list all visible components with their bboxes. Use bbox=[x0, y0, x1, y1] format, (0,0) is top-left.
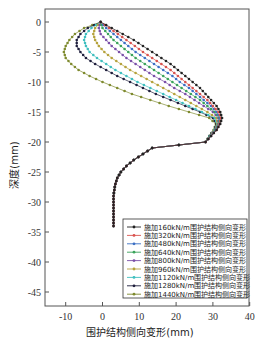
data-point bbox=[110, 57, 113, 60]
data-point bbox=[168, 84, 171, 87]
data-point bbox=[177, 75, 180, 78]
data-point bbox=[217, 108, 220, 111]
data-point bbox=[83, 27, 86, 30]
data-point bbox=[198, 114, 201, 117]
legend: 施加160kN/m围护结构侧向变形施加320kN/m围护结构侧向变形施加480k… bbox=[123, 219, 250, 299]
data-point bbox=[155, 93, 158, 96]
legend-item: 施加1280kN/m围护结构侧向变形 bbox=[127, 281, 250, 290]
legend-item: 施加480kN/m围护结构侧向变形 bbox=[127, 239, 246, 248]
data-point bbox=[209, 102, 212, 105]
data-point bbox=[112, 201, 115, 204]
data-point bbox=[107, 33, 110, 36]
data-point bbox=[112, 210, 115, 213]
data-point bbox=[88, 51, 91, 54]
data-point bbox=[120, 72, 123, 75]
data-point bbox=[194, 108, 197, 111]
data-point bbox=[98, 27, 101, 30]
data-point bbox=[92, 33, 95, 36]
data-point bbox=[116, 36, 119, 39]
data-point bbox=[195, 105, 198, 108]
data-point bbox=[202, 96, 205, 99]
data-point bbox=[99, 33, 102, 36]
data-point bbox=[169, 69, 172, 72]
data-point bbox=[105, 63, 108, 66]
data-point bbox=[167, 78, 170, 81]
data-point bbox=[110, 45, 113, 48]
data-point bbox=[83, 72, 86, 75]
data-point bbox=[115, 60, 118, 63]
data-point bbox=[149, 87, 152, 90]
data-point bbox=[145, 78, 148, 81]
data-point bbox=[139, 66, 142, 69]
data-point bbox=[124, 66, 127, 69]
data-point bbox=[162, 75, 165, 78]
data-point bbox=[204, 141, 207, 144]
data-point bbox=[105, 39, 108, 42]
data-point bbox=[100, 48, 103, 51]
data-point bbox=[169, 99, 172, 102]
data-point bbox=[109, 36, 112, 39]
data-point bbox=[173, 87, 176, 90]
legend-label: 施加1440kN/m围护结构侧向变形 bbox=[144, 290, 250, 299]
data-point bbox=[210, 108, 213, 111]
data-point bbox=[177, 102, 180, 105]
data-point bbox=[184, 75, 187, 78]
data-point bbox=[167, 72, 170, 75]
data-point bbox=[118, 174, 121, 177]
data-point bbox=[113, 189, 116, 192]
legend-label: 施加480kN/m围护结构侧向变形 bbox=[144, 239, 246, 248]
data-point bbox=[116, 42, 119, 45]
data-point bbox=[101, 27, 104, 30]
data-point bbox=[220, 120, 223, 123]
data-point bbox=[137, 156, 140, 159]
data-point bbox=[158, 102, 161, 105]
data-point bbox=[190, 93, 193, 96]
data-point bbox=[215, 105, 218, 108]
data-point bbox=[153, 75, 156, 78]
legend-label: 施加1120kN/m围护结构侧向变形 bbox=[144, 273, 250, 282]
data-point bbox=[116, 75, 119, 78]
data-point bbox=[112, 39, 115, 42]
data-point bbox=[112, 30, 115, 33]
y-tick-label: -5 bbox=[33, 47, 41, 58]
data-point bbox=[160, 57, 163, 60]
data-point bbox=[63, 51, 66, 54]
data-point bbox=[105, 24, 108, 27]
data-point bbox=[137, 42, 140, 45]
data-point bbox=[79, 51, 82, 54]
legend-item: 施加160kN/m围护结构侧向变形 bbox=[127, 223, 246, 232]
data-point bbox=[162, 96, 165, 99]
y-tick-label: -20 bbox=[28, 137, 41, 148]
data-point bbox=[123, 42, 126, 45]
data-point bbox=[86, 27, 89, 30]
data-point bbox=[78, 30, 81, 33]
data-point bbox=[75, 42, 78, 45]
legend-item: 施加1440kN/m围护结构侧向变形 bbox=[127, 290, 250, 299]
x-tick-label: 40 bbox=[245, 311, 255, 322]
y-tick-label: -25 bbox=[28, 167, 41, 178]
data-point bbox=[114, 69, 117, 72]
legend-marker-icon bbox=[133, 284, 136, 287]
data-point bbox=[173, 72, 176, 75]
data-point bbox=[199, 96, 202, 99]
data-point bbox=[164, 81, 167, 84]
x-axis-title: 围护结构侧向变形(mm) bbox=[86, 326, 193, 338]
data-point bbox=[167, 105, 170, 108]
data-point bbox=[143, 84, 146, 87]
data-point bbox=[148, 66, 151, 69]
data-point bbox=[93, 30, 96, 33]
data-point bbox=[206, 105, 209, 108]
data-point bbox=[117, 33, 120, 36]
data-point bbox=[148, 60, 151, 63]
data-point bbox=[82, 54, 85, 57]
data-point bbox=[195, 93, 198, 96]
data-point bbox=[202, 102, 205, 105]
data-point bbox=[75, 39, 78, 42]
data-point bbox=[64, 45, 67, 48]
legend-item: 施加1120kN/m围护结构侧向变形 bbox=[127, 273, 250, 282]
data-point bbox=[122, 78, 125, 81]
data-point bbox=[98, 30, 101, 33]
data-point bbox=[151, 147, 154, 150]
data-point bbox=[219, 111, 222, 114]
data-point bbox=[121, 36, 124, 39]
